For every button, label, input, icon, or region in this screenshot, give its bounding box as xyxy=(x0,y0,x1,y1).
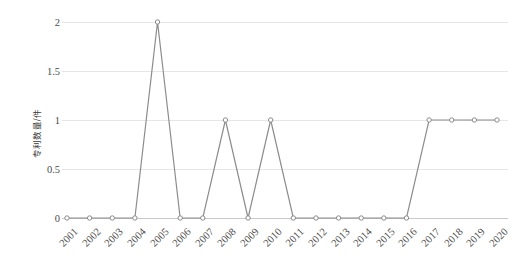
data-point-marker xyxy=(472,118,476,122)
data-point-marker xyxy=(87,216,91,220)
data-point-marker xyxy=(359,216,363,220)
data-point-marker xyxy=(291,216,295,220)
data-point-marker xyxy=(382,216,386,220)
data-point-marker xyxy=(155,20,159,24)
data-point-marker xyxy=(201,216,205,220)
data-point-marker xyxy=(495,118,499,122)
data-point-marker xyxy=(133,216,137,220)
data-point-marker xyxy=(450,118,454,122)
data-point-marker xyxy=(223,118,227,122)
data-point-marker xyxy=(336,216,340,220)
data-point-marker xyxy=(404,216,408,220)
plot-area xyxy=(0,0,529,267)
patent-count-line-chart: 专利数量/件 00.511.52 20012002200320042005200… xyxy=(0,0,529,267)
data-point-marker xyxy=(178,216,182,220)
data-point-marker xyxy=(65,216,69,220)
data-point-marker xyxy=(314,216,318,220)
data-point-marker xyxy=(427,118,431,122)
data-point-marker xyxy=(246,216,250,220)
data-point-marker xyxy=(268,118,272,122)
data-point-marker xyxy=(110,216,114,220)
